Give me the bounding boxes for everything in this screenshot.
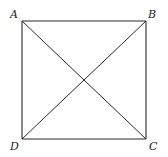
vertex-label-c: C (149, 140, 158, 153)
vertex-label-a: A (9, 8, 18, 21)
diagram: A B C D (0, 0, 168, 157)
vertex-label-b: B (147, 8, 156, 21)
vertex-label-d: D (9, 140, 19, 153)
square-diagonals (22, 21, 146, 139)
